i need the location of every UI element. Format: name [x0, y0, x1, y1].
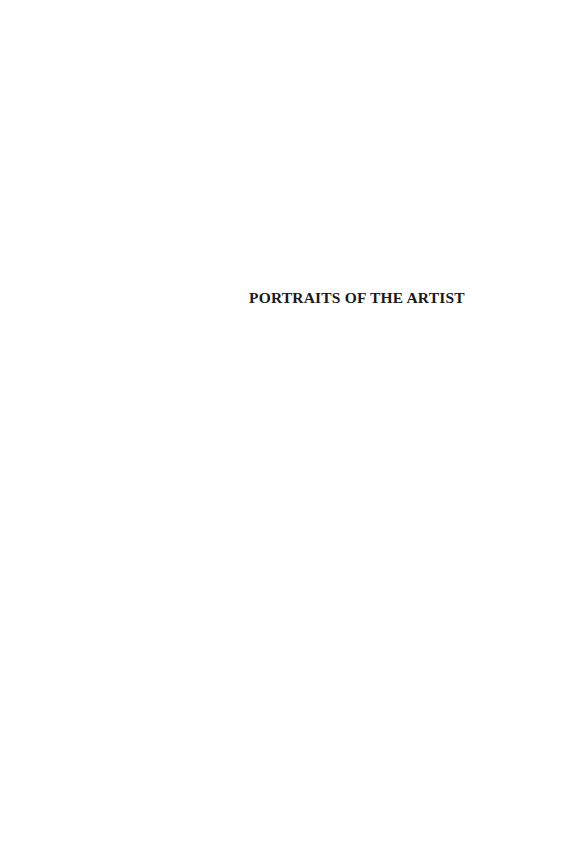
- book-page: PORTRAITS OF THE ARTIST: [0, 0, 562, 864]
- half-title: PORTRAITS OF THE ARTIST: [249, 290, 466, 306]
